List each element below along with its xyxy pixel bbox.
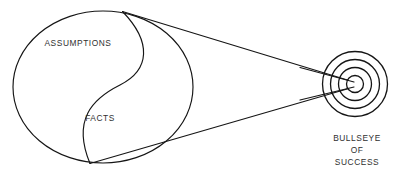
diagram-svg: ASSUMPTIONS FACTS BULLSEYE OF SUCCESS <box>0 0 416 180</box>
projection-cone-fill <box>90 12 355 163</box>
label-facts: FACTS <box>85 113 115 123</box>
bullseye-center-dot <box>347 76 364 93</box>
target-caption-line-1: BULLSEYE <box>333 133 381 143</box>
target-caption-line-3: SUCCESS <box>335 157 379 167</box>
diagram-canvas: ASSUMPTIONS FACTS BULLSEYE OF SUCCESS <box>0 0 416 180</box>
label-assumptions: ASSUMPTIONS <box>44 38 111 48</box>
target-caption-line-2: OF <box>351 145 364 155</box>
